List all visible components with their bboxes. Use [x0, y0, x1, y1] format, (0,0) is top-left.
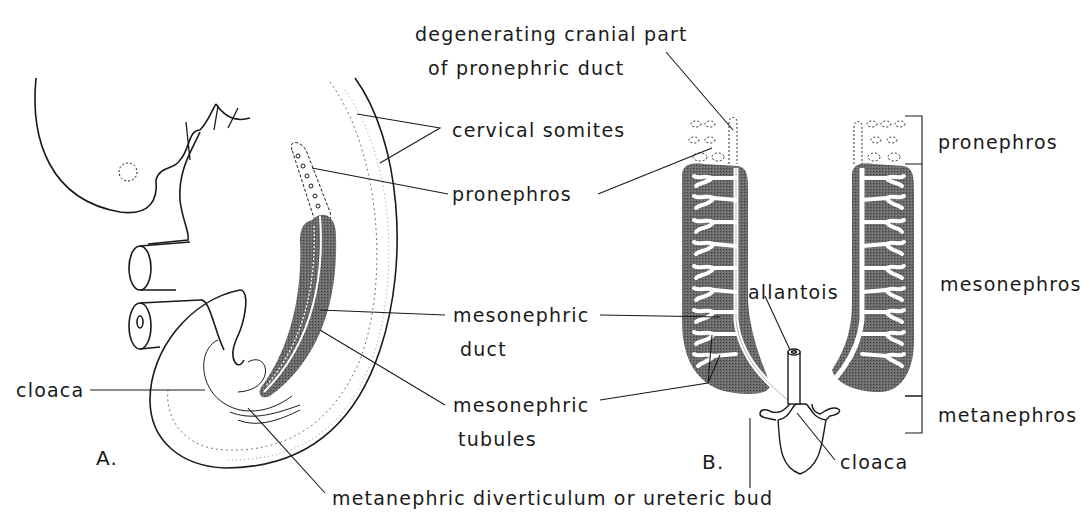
label-mesonephric-duct-line2: duct: [460, 337, 507, 361]
label-cloaca-a: cloaca: [16, 378, 84, 402]
pronephros-a: [291, 143, 331, 224]
label-mesonephric-duct-line1: mesonephric: [453, 303, 589, 327]
label-allantois: allantois: [748, 280, 839, 304]
label-degenerating-line2: of pronephric duct: [428, 56, 624, 80]
label-pronephros: pronephros: [452, 182, 572, 206]
panel-label-a: A.: [96, 446, 118, 470]
region-label-mesonephros: mesonephros: [940, 272, 1082, 296]
head-outline: [35, 78, 250, 213]
bracket-pronephros: [905, 116, 922, 164]
region-label-pronephros: pronephros: [938, 130, 1058, 154]
mesonephros-b-right: [812, 121, 914, 402]
label-cloaca-b: cloaca: [840, 450, 908, 474]
label-degenerating-line1: degenerating cranial part: [415, 22, 688, 46]
mesonephros-a: [260, 215, 337, 397]
panel-a-embryo: [35, 78, 397, 468]
label-cervical-somites: cervical somites: [452, 118, 625, 142]
cloaca-b: [760, 349, 840, 474]
somite-band: [168, 82, 377, 450]
region-label-metanephros: metanephros: [938, 403, 1077, 427]
otic-vesicle: [119, 163, 137, 181]
mesonephros-b-left: [682, 118, 790, 403]
label-metanephric: metanephric diverticulum or ureteric bud: [332, 486, 773, 510]
bracket-metanephros: [905, 396, 922, 433]
label-mesonephric-tubules-line2: tubules: [458, 427, 537, 451]
label-mesonephric-tubules-line1: mesonephric: [453, 393, 589, 417]
panel-label-b: B.: [702, 450, 724, 474]
